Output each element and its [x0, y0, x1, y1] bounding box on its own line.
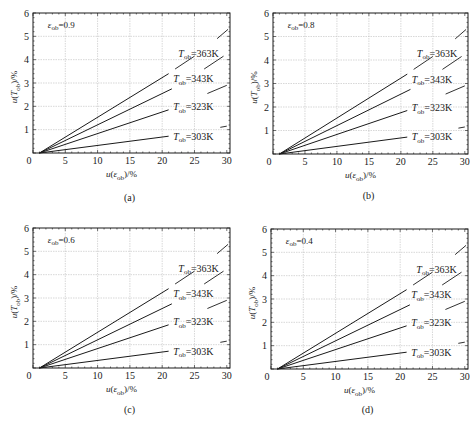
chart-panel-b: 051015202530123456u(εob)/%u(Tob)/%εob=0.… — [249, 8, 470, 203]
y-axis-label: u(Tob)/% — [9, 70, 22, 103]
top-segment — [217, 244, 228, 253]
svg-text:10: 10 — [93, 155, 103, 166]
y-tick-labels: 123456 — [262, 224, 267, 352]
svg-text:5: 5 — [264, 31, 269, 42]
top-segment — [217, 29, 228, 38]
top-segment — [455, 29, 466, 38]
svg-text:4: 4 — [24, 54, 29, 65]
svg-text:3: 3 — [24, 293, 29, 304]
x-axis-label: u(εob)/% — [344, 385, 376, 398]
svg-text:5: 5 — [302, 156, 307, 167]
panel-caption: (a) — [124, 192, 135, 204]
series-label: Tob=363K — [417, 48, 458, 62]
svg-text:30: 30 — [460, 156, 470, 167]
y-axis-label: u(Tob)/% — [9, 285, 22, 318]
svg-text:20: 20 — [157, 370, 167, 381]
x-tick-labels: 051015202530 — [265, 371, 470, 382]
svg-text:30: 30 — [460, 371, 470, 382]
svg-text:15: 15 — [363, 371, 373, 382]
series-label: Tob=303K — [173, 346, 214, 360]
svg-text:2: 2 — [262, 317, 267, 328]
y-tick-labels: 123456 — [24, 223, 29, 351]
svg-text:4: 4 — [24, 269, 29, 280]
svg-text:5: 5 — [24, 246, 29, 257]
svg-text:25: 25 — [428, 156, 438, 167]
svg-text:15: 15 — [364, 156, 374, 167]
panel-caption: (d) — [362, 404, 374, 416]
svg-text:25: 25 — [189, 155, 199, 166]
svg-text:6: 6 — [24, 8, 29, 19]
svg-text:1: 1 — [24, 339, 29, 350]
panel-caption: (b) — [363, 190, 375, 202]
series-label: Tob=323K — [412, 102, 453, 116]
svg-text:5: 5 — [63, 155, 68, 166]
svg-text:1: 1 — [262, 340, 267, 351]
svg-text:6: 6 — [24, 223, 29, 234]
svg-text:5: 5 — [63, 370, 68, 381]
svg-text:3: 3 — [264, 78, 269, 89]
svg-text:6: 6 — [264, 8, 269, 19]
svg-text:0: 0 — [265, 371, 270, 382]
svg-text:10: 10 — [332, 156, 342, 167]
x-axis-label: u(εob)/% — [106, 169, 138, 182]
y-axis-label: u(Tob)/% — [249, 71, 262, 104]
figure-canvas: 051015202530123456u(εob)/%u(Tob)/%εob=0.… — [0, 0, 475, 421]
series-label: Tob=363K — [178, 48, 219, 62]
svg-text:0: 0 — [27, 155, 32, 166]
svg-text:20: 20 — [395, 371, 405, 382]
svg-text:3: 3 — [24, 78, 29, 89]
svg-text:2: 2 — [24, 101, 29, 112]
x-tick-labels: 051015202530 — [27, 370, 232, 381]
chart-panel-c: 051015202530123456u(εob)/%u(Tob)/%εob=0.… — [9, 223, 232, 417]
svg-text:4: 4 — [262, 270, 267, 281]
series-label: Tob=343K — [173, 288, 214, 302]
chart-panel-a: 051015202530123456u(εob)/%u(Tob)/%εob=0.… — [9, 8, 232, 205]
series-label: Tob=343K — [173, 73, 214, 87]
x-tick-labels: 051015202530 — [267, 156, 470, 167]
panel-caption: (c) — [124, 404, 135, 416]
svg-text:30: 30 — [222, 370, 232, 381]
svg-text:10: 10 — [93, 370, 103, 381]
series-label: Tob=323K — [173, 316, 214, 330]
emissivity-annotation: εob=0.8 — [288, 20, 315, 33]
series-label: Tob=303K — [412, 131, 453, 145]
svg-text:5: 5 — [24, 31, 29, 42]
svg-text:5: 5 — [301, 371, 306, 382]
svg-text:4: 4 — [264, 55, 269, 66]
svg-text:20: 20 — [157, 155, 167, 166]
series-label: Tob=363K — [178, 263, 219, 277]
svg-text:30: 30 — [222, 155, 232, 166]
series-label: Tob=303K — [173, 131, 214, 145]
svg-text:20: 20 — [396, 156, 406, 167]
svg-text:2: 2 — [24, 316, 29, 327]
svg-text:0: 0 — [267, 156, 272, 167]
svg-text:25: 25 — [427, 371, 437, 382]
emissivity-annotation: εob=0.6 — [48, 235, 75, 248]
svg-text:10: 10 — [331, 371, 341, 382]
svg-text:2: 2 — [264, 102, 269, 113]
svg-text:3: 3 — [262, 294, 267, 305]
top-segment — [455, 245, 466, 254]
svg-text:1: 1 — [264, 125, 269, 136]
series-label: Tob=363K — [416, 264, 457, 278]
series-label: Tob=323K — [411, 317, 452, 331]
svg-text:15: 15 — [125, 155, 135, 166]
x-axis-label: u(εob)/% — [106, 384, 138, 397]
chart-panel-d: 051015202530123456u(εob)/%u(Tob)/%εob=0.… — [247, 224, 470, 417]
series-label: Tob=343K — [412, 74, 453, 88]
y-axis-label: u(Tob)/% — [247, 286, 260, 319]
svg-text:0: 0 — [27, 370, 32, 381]
series-label: Tob=343K — [411, 289, 452, 303]
y-tick-labels: 123456 — [264, 8, 269, 137]
series-label: Tob=303K — [411, 347, 452, 361]
x-axis-label: u(εob)/% — [345, 170, 377, 183]
emissivity-annotation: εob=0.9 — [48, 20, 75, 32]
svg-text:1: 1 — [24, 124, 29, 135]
svg-text:25: 25 — [189, 370, 199, 381]
svg-text:6: 6 — [262, 224, 267, 235]
svg-text:15: 15 — [125, 370, 135, 381]
emissivity-annotation: εob=0.4 — [286, 236, 313, 249]
series-label: Tob=323K — [173, 101, 214, 115]
x-tick-labels: 051015202530 — [27, 155, 232, 166]
y-tick-labels: 123456 — [24, 8, 29, 136]
